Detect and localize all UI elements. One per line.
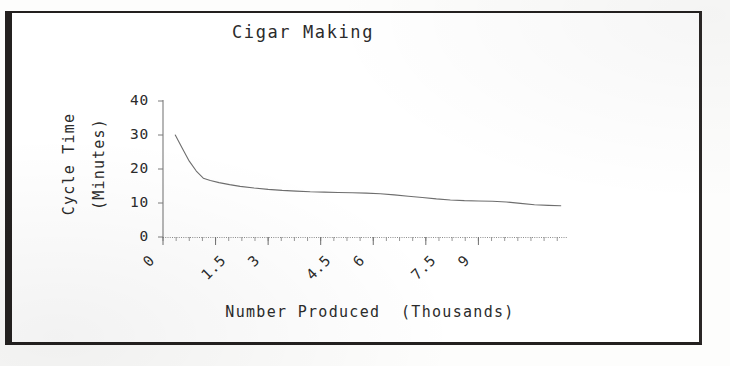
x-axis-label: Number Produced (Thousands) [120, 303, 620, 321]
chart-title-text: Cigar Making [232, 22, 374, 42]
y-axis-tick-label: 40 [115, 92, 149, 108]
y-axis-tick-label: 30 [115, 126, 149, 142]
figure-border [5, 11, 702, 345]
scanned-page: Cigar Making Cycle Time (Minutes) Number… [0, 0, 730, 366]
y-axis-tick-label: 20 [115, 160, 149, 176]
y-axis-tick-label: 0 [115, 228, 149, 244]
chart-title: Cigar Making [0, 22, 730, 42]
y-axis-label-primary: Cycle Time [60, 94, 78, 234]
y-axis-tick-label: 10 [115, 194, 149, 210]
y-axis-label-secondary: (Minutes) [90, 94, 108, 234]
